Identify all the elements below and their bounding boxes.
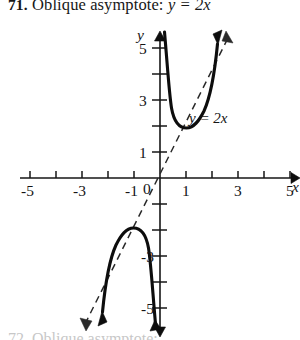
x-tick-label-3: 3 — [234, 183, 242, 199]
y-tick-label-3: 3 — [139, 93, 147, 109]
curve-upper-arrowhead — [213, 30, 222, 45]
asymptote-label: y = 2x — [189, 111, 227, 126]
next-exercise-partial-text: 72. Oblique asymptote: — [8, 330, 298, 340]
x-tick-label--3: -3 — [73, 183, 86, 199]
x-tick-label--1: -1 — [125, 183, 138, 199]
curve-lower-arrowhead — [98, 311, 107, 326]
x-tick-label-5: 5 — [286, 183, 294, 199]
y-tick-label-5: 5 — [139, 41, 147, 57]
x-tick-label--5: -5 — [21, 183, 34, 199]
y-tick-label-1: 1 — [139, 145, 147, 161]
asymptote-upper-arrowhead — [222, 31, 233, 43]
origin-label: 0 — [143, 181, 151, 197]
x-tick-label-1: 1 — [182, 183, 190, 199]
y-tick-label--5: -5 — [141, 301, 154, 317]
y-tick-label--3: -3 — [141, 249, 154, 265]
